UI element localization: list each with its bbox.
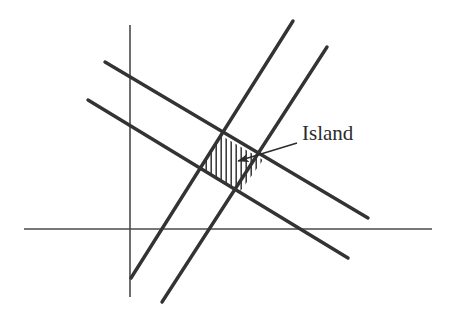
ascending-line-left xyxy=(131,21,293,278)
ascending-line-right xyxy=(162,47,327,302)
island-region xyxy=(199,136,263,193)
island-diagram: Island xyxy=(0,0,451,320)
diagram-canvas xyxy=(0,0,451,320)
island-label: Island xyxy=(302,121,353,146)
island-polygon xyxy=(199,136,263,193)
